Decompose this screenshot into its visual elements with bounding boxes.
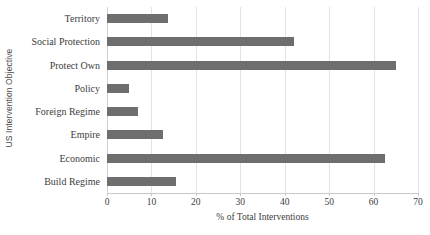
x-axis-tick-label: 0 (105, 197, 110, 207)
bar (107, 130, 163, 139)
bar (107, 154, 385, 163)
x-axis-tick-mark (285, 193, 286, 196)
bar-row (107, 170, 418, 193)
bar-row (107, 123, 418, 146)
plot-area (107, 7, 418, 193)
x-axis-tick-mark (107, 193, 108, 196)
y-axis-title: US Intervention Objective (0, 0, 18, 196)
bar (107, 14, 168, 23)
y-axis-tick-label: Economic (18, 147, 104, 170)
x-axis-tick-mark (418, 193, 419, 196)
bar (107, 107, 138, 116)
x-axis-tick-mark (151, 193, 152, 196)
x-axis-tick-label: 10 (147, 197, 157, 207)
x-axis-tick-label: 40 (280, 197, 290, 207)
x-axis-tick-labels: 010203040506070 (107, 197, 418, 211)
bar-row (107, 30, 418, 53)
bar-series (107, 7, 418, 193)
x-axis-tick-mark (329, 193, 330, 196)
bar-row (107, 7, 418, 30)
x-axis-tick-label: 20 (191, 197, 201, 207)
y-axis-tick-label: Policy (18, 77, 104, 100)
x-axis-tick-label: 70 (413, 197, 423, 207)
y-axis-tick-labels: TerritorySocial ProtectionProtect OwnPol… (18, 7, 104, 193)
x-axis-tick-label: 60 (369, 197, 379, 207)
bar-row (107, 147, 418, 170)
gridline (418, 7, 419, 193)
y-axis-tick-label: Protect Own (18, 54, 104, 77)
x-axis-tick-marks (107, 193, 418, 196)
bar-row (107, 54, 418, 77)
bar (107, 61, 396, 70)
x-axis-tick-label: 50 (324, 197, 334, 207)
x-axis-tick-mark (196, 193, 197, 196)
bar-row (107, 100, 418, 123)
x-axis-title: % of Total Interventions (107, 212, 418, 222)
y-axis-title-text: US Intervention Objective (4, 49, 14, 148)
y-axis-tick-label: Foreign Regime (18, 100, 104, 123)
y-axis-tick-label: Territory (18, 7, 104, 30)
bar-row (107, 77, 418, 100)
bar (107, 84, 129, 93)
x-axis-tick-mark (374, 193, 375, 196)
bar (107, 177, 176, 186)
bar (107, 37, 294, 46)
x-axis-tick-mark (240, 193, 241, 196)
x-axis-tick-label: 30 (236, 197, 246, 207)
y-axis-tick-label: Empire (18, 123, 104, 146)
y-axis-tick-label: Social Protection (18, 30, 104, 53)
bar-chart: US Intervention Objective TerritorySocia… (0, 0, 430, 235)
y-axis-tick-label: Build Regime (18, 170, 104, 193)
